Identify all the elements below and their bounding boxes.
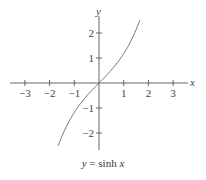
y-tick-label: −1 xyxy=(82,102,94,114)
x-tick-label: 1 xyxy=(121,87,127,99)
x-tick-label: 2 xyxy=(146,87,152,99)
caption-x: x xyxy=(119,157,124,169)
caption-eq: = sinh xyxy=(87,157,120,169)
x-tick-label: −1 xyxy=(68,87,80,99)
y-tick-label: 1 xyxy=(89,52,95,64)
x-axis-label: x xyxy=(189,76,195,88)
x-tick-label: −3 xyxy=(19,87,31,99)
y-tick-label: −2 xyxy=(82,127,94,139)
sinh-plot: −3−2−1123−2−112 x y xyxy=(0,0,206,180)
y-axis-label: y xyxy=(95,5,101,17)
y-tick-label: 2 xyxy=(89,27,95,39)
chart-caption: y = sinh x xyxy=(0,157,206,169)
x-tick-label: 3 xyxy=(170,87,176,99)
x-tick-label: −2 xyxy=(44,87,56,99)
